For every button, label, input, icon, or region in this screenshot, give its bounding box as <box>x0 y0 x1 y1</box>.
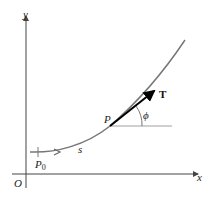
tangent-label: T <box>159 88 167 100</box>
x-axis-label: x <box>196 171 202 183</box>
origin-label: O <box>14 177 22 189</box>
angle-label: ϕ <box>143 109 149 121</box>
tangent-diagram: y x O P0 s P T ϕ <box>0 0 223 204</box>
point-p-label: P <box>103 113 111 125</box>
p0-label: P0 <box>34 158 46 172</box>
arc-length-label: s <box>78 143 82 155</box>
y-axis-label: y <box>22 8 28 20</box>
diagram-canvas: y x O P0 s P T ϕ <box>0 0 223 204</box>
angle-arc <box>136 106 142 126</box>
